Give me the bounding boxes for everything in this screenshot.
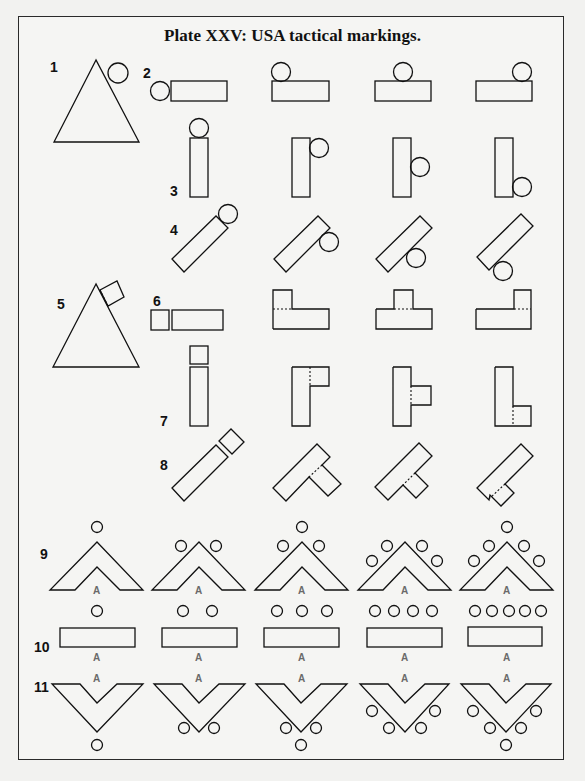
svg-text:A: A	[298, 673, 305, 684]
marking-11c: A	[256, 673, 347, 751]
marking-11e: A	[461, 673, 551, 751]
svg-text:A: A	[298, 652, 305, 663]
marking-1	[54, 60, 139, 142]
svg-text:A: A	[401, 585, 408, 596]
svg-text:A: A	[93, 585, 100, 596]
marking-9d: A	[358, 541, 451, 597]
marking-10e: A	[468, 606, 547, 664]
row-number-7: 7	[160, 413, 168, 429]
marking-9b: A	[152, 541, 245, 597]
marking-7b	[292, 367, 329, 426]
marking-9c: A	[255, 522, 348, 597]
marking-7c	[393, 367, 431, 426]
marking-10b: A	[162, 606, 237, 664]
svg-text:A: A	[503, 585, 510, 596]
marking-6b	[273, 290, 329, 329]
svg-text:A: A	[93, 673, 100, 684]
marking-6d	[476, 290, 531, 329]
row-number-4: 4	[170, 222, 178, 238]
marking-4d	[477, 214, 533, 281]
svg-text:A: A	[93, 652, 100, 663]
row-number-10: 10	[34, 639, 50, 655]
marking-10a: A	[60, 606, 135, 664]
marking-2c	[375, 63, 431, 102]
marking-2d	[476, 63, 532, 102]
row-number-2: 2	[143, 65, 151, 81]
row-number-9: 9	[40, 546, 48, 562]
plate: Plate XXV: USA tactical markings. 1 2 3 …	[0, 0, 585, 781]
marking-8a	[172, 429, 244, 501]
row-number-6: 6	[153, 293, 161, 309]
svg-text:A: A	[195, 585, 202, 596]
marking-10c: A	[264, 606, 339, 664]
marking-11b: A	[154, 673, 245, 734]
marking-3a	[190, 119, 209, 198]
marking-6a	[151, 310, 223, 330]
svg-text:A: A	[298, 585, 305, 596]
svg-text:A: A	[401, 652, 408, 663]
row-number-11: 11	[34, 679, 49, 695]
marking-8d	[477, 444, 533, 506]
marking-4b	[274, 216, 339, 272]
marking-9e: A	[460, 522, 553, 597]
marking-6c	[376, 290, 432, 329]
marking-7d	[495, 367, 531, 426]
marking-5	[53, 281, 139, 367]
markings-diagram: 1 2 3 4 5 6 7 8 9 10 11	[0, 0, 585, 781]
row-number-3: 3	[170, 183, 178, 199]
marking-3c	[393, 138, 430, 197]
marking-7a	[190, 346, 208, 426]
marking-11d: A	[360, 673, 449, 734]
svg-text:A: A	[195, 673, 202, 684]
marking-2b	[272, 63, 330, 102]
svg-text:A: A	[195, 652, 202, 663]
svg-text:A: A	[503, 652, 510, 663]
marking-3b	[292, 138, 329, 197]
marking-4a	[172, 205, 238, 273]
marking-10d: A	[367, 606, 442, 664]
marking-4c	[376, 216, 432, 272]
marking-8c	[375, 443, 432, 500]
svg-text:A: A	[401, 673, 408, 684]
svg-text:A: A	[503, 673, 510, 684]
row-number-8: 8	[160, 457, 168, 473]
row-number-1: 1	[50, 59, 58, 75]
marking-9a: A	[50, 522, 143, 597]
marking-8b	[273, 444, 341, 501]
marking-11a: A	[52, 673, 143, 751]
row-number-5: 5	[57, 296, 65, 312]
marking-2a	[151, 81, 228, 101]
marking-3d	[495, 138, 532, 197]
